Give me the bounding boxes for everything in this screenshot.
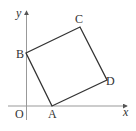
square-abcd	[26, 27, 107, 106]
y-axis-label: y	[15, 6, 22, 20]
vertex-c-label: C	[75, 12, 83, 26]
origin-label: O	[15, 107, 24, 121]
coordinate-diagram: y x O A B C D	[0, 0, 136, 131]
diagram-canvas: y x O A B C D	[0, 0, 136, 131]
vertex-d-label: D	[106, 74, 115, 88]
x-axis-label: x	[122, 105, 129, 119]
vertex-b-label: B	[16, 47, 24, 61]
vertex-a-label: A	[48, 107, 57, 121]
